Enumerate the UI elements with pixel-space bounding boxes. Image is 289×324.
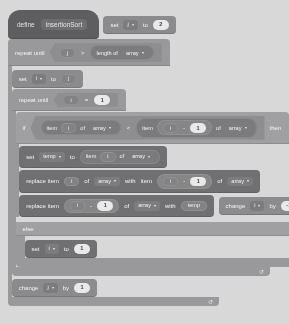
if-else-header[interactable]: if item i of array ▾ (16, 112, 289, 144)
variable-i[interactable]: i (163, 177, 178, 187)
chevron-down-icon: ▾ (114, 179, 116, 183)
else-label: else (23, 226, 34, 232)
variable-name: j (127, 22, 128, 28)
procedure-prototype[interactable]: insertionSort (41, 19, 88, 30)
list-name: array (98, 179, 111, 185)
variable-i[interactable]: i (163, 123, 178, 133)
variable-dropdown-i[interactable]: i ▾ (45, 244, 59, 254)
block-change-j[interactable]: change j ▾ by 1 (12, 279, 97, 297)
repeat-until-inner-header[interactable]: repeat until i = 1 (12, 89, 126, 111)
variable-dropdown-i[interactable]: i ▾ (32, 74, 46, 84)
replace-item-label: replace item (26, 178, 59, 184)
reporter-subtract[interactable]: i - 1 (64, 199, 119, 214)
list-dropdown-array[interactable]: array ▾ (122, 48, 148, 58)
block-set-temp[interactable]: set temp ▾ to item (19, 146, 167, 169)
else-divider[interactable]: else (16, 222, 289, 236)
chevron-down-icon: ▾ (154, 204, 156, 208)
by-label: by (269, 203, 275, 209)
replace-item-label: replace item (26, 203, 59, 209)
variable-i[interactable]: i (64, 177, 79, 187)
of-label: of (217, 178, 222, 184)
then-label: then (270, 125, 282, 131)
operator-symbol: = (84, 97, 90, 103)
variable-j-reporter[interactable]: j (61, 74, 76, 84)
loop-arrow-icon: ↺ (259, 268, 264, 275)
condition-less-than[interactable]: item i of array ▾ < (31, 116, 265, 140)
item-label: item (86, 154, 97, 160)
condition-greater-than[interactable]: j > length of array ▾ (50, 43, 162, 62)
variable-dropdown-j[interactable]: j ▾ (43, 283, 57, 293)
variable-dropdown-j[interactable]: j ▾ (123, 20, 137, 30)
number-input-1[interactable]: 1 (94, 95, 110, 105)
variable-i[interactable]: i (63, 95, 78, 105)
loop-arrow-icon: ↺ (208, 298, 213, 305)
number-input-1[interactable]: 1 (190, 123, 206, 133)
item-label: item (141, 178, 152, 184)
variable-j[interactable]: j (60, 48, 75, 58)
number-input-1[interactable]: 1 (97, 201, 113, 211)
reporter-subtract[interactable]: i - 1 (157, 174, 212, 189)
list-dropdown-array[interactable]: array ▾ (89, 123, 115, 133)
list-name: array (229, 125, 242, 131)
chevron-down-icon: ▾ (53, 247, 55, 251)
variable-name: j (47, 285, 48, 291)
set-label: set (19, 76, 27, 82)
of-label: of (124, 203, 129, 209)
variable-name: i (254, 203, 255, 209)
number-input-1[interactable]: 1 (190, 177, 206, 187)
chevron-down-icon: ▾ (247, 179, 249, 183)
block-replace-item-i[interactable]: replace item i of array ▾ with (19, 170, 260, 193)
list-dropdown-array[interactable]: array ▾ (225, 123, 251, 133)
set-label: set (26, 154, 34, 160)
with-label: with (125, 178, 136, 184)
condition-equals[interactable]: i = 1 (53, 93, 118, 107)
list-dropdown-array[interactable]: array ▾ (94, 177, 120, 187)
repeat-until-outer-header[interactable]: repeat until j > length of array ▾ (8, 39, 170, 66)
variable-dropdown-temp[interactable]: temp ▾ (39, 152, 64, 162)
chevron-down-icon: ▾ (142, 50, 144, 55)
if-else-footer (16, 258, 289, 267)
block-repeat-until-inner[interactable]: repeat until i = 1 (12, 88, 289, 276)
reporter-length-of-array[interactable]: length of array ▾ (90, 45, 153, 60)
list-dropdown-array[interactable]: array ▾ (134, 201, 160, 211)
block-change-i[interactable]: change i ▾ by -1 (219, 197, 289, 215)
number-input-minus-1[interactable]: -1 (281, 201, 289, 211)
change-label: change (19, 285, 39, 291)
block-if-else[interactable]: if item i of array ▾ (16, 112, 289, 267)
number-input-1[interactable]: 1 (74, 283, 90, 293)
list-dropdown-array[interactable]: array ▾ (227, 177, 253, 187)
block-repeat-until-outer[interactable]: repeat until j > length of array ▾ set (8, 39, 289, 306)
variable-i[interactable]: i (70, 201, 85, 211)
repeat-until-outer-footer: ↺ (8, 297, 219, 306)
reporter-subtract[interactable]: i - 1 (157, 120, 212, 135)
block-set-i[interactable]: set i ▾ to j (12, 70, 84, 88)
repeat-until-inner-footer: ↺ (12, 267, 270, 276)
by-label: by (63, 285, 69, 291)
reporter-item-i-minus-1-of-array[interactable]: item i - 1 of (136, 118, 256, 138)
define-hat-block[interactable]: define insertionSort (8, 10, 99, 39)
block-set-j[interactable]: set j ▾ to 2 (103, 16, 175, 34)
reporter-item-i-of-array[interactable]: item i of array ▾ (41, 120, 121, 135)
list-dropdown-array[interactable]: array ▾ (128, 152, 154, 162)
variable-dropdown-i[interactable]: i ▾ (250, 201, 264, 211)
block-set-i-one[interactable]: set i ▾ to 1 (25, 240, 97, 258)
set-label: set (32, 246, 40, 252)
variable-i[interactable]: i (100, 152, 115, 162)
block-script[interactable]: define insertionSort set j ▾ to 2 repeat… (8, 10, 289, 306)
variable-temp[interactable]: temp (181, 201, 207, 211)
repeat-until-label: repeat until (15, 50, 45, 56)
operator-symbol: < (126, 125, 132, 131)
number-input-2[interactable]: 2 (153, 20, 169, 30)
minus-sign: - (89, 203, 93, 209)
chevron-down-icon: ▾ (245, 125, 247, 130)
block-replace-item-i-minus-1[interactable]: replace item i - 1 of (19, 195, 214, 218)
reporter-item-i-of-array[interactable]: item i of array ▾ (80, 150, 160, 165)
c-wall-else (16, 236, 25, 258)
number-input-1[interactable]: 1 (74, 244, 90, 254)
variable-name: i (49, 246, 50, 252)
variable-i[interactable]: i (61, 123, 76, 133)
item-label: item (142, 125, 153, 131)
to-label: to (64, 246, 69, 252)
chevron-down-icon: ▾ (52, 286, 54, 290)
item-label: item (47, 125, 58, 131)
